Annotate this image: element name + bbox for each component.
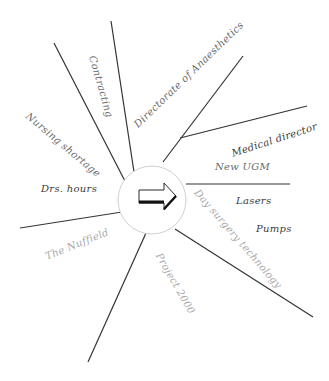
label-lasers: Lasers bbox=[236, 196, 271, 206]
label-pumps: Pumps bbox=[256, 224, 292, 234]
spoke-line-contracting-right bbox=[111, 21, 134, 172]
spoke-line-nuffield bbox=[20, 212, 122, 228]
spoke-line-directorate bbox=[163, 56, 243, 162]
label-new-ugm: New UGM bbox=[215, 162, 270, 172]
label-drs-hours: Drs. hours bbox=[41, 184, 97, 194]
spoke-line-project-2000 bbox=[88, 233, 146, 362]
